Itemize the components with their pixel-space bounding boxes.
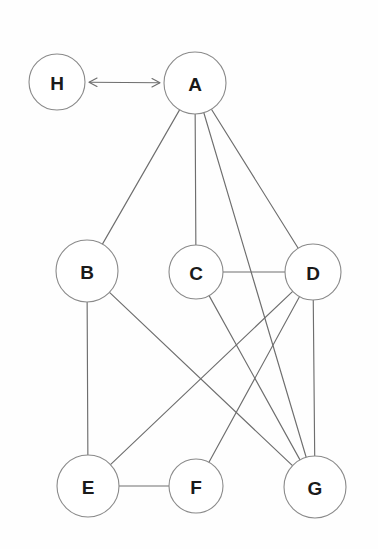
node-label: C	[189, 263, 203, 284]
node-e[interactable]: E	[57, 455, 119, 517]
edge-a-b[interactable]	[102, 110, 179, 244]
edge-d-g[interactable]	[313, 300, 314, 456]
edge-line	[209, 297, 300, 463]
node-c[interactable]: C	[169, 245, 223, 299]
edge-line	[195, 114, 196, 245]
node-label: F	[190, 477, 202, 498]
node-d[interactable]: D	[285, 244, 341, 300]
node-g[interactable]: G	[284, 456, 346, 518]
node-label: E	[82, 477, 95, 498]
node-f[interactable]: F	[169, 459, 223, 513]
nodes-layer: HABCDEFG	[29, 52, 346, 518]
edge-d-f[interactable]	[209, 297, 300, 463]
node-label: A	[188, 74, 202, 95]
edge-a-c[interactable]	[195, 114, 196, 245]
edge-line	[102, 110, 179, 244]
edge-line	[89, 82, 160, 83]
node-label: D	[306, 263, 320, 284]
edge-d-e[interactable]	[110, 291, 292, 464]
edge-line	[313, 300, 314, 456]
node-a[interactable]: A	[164, 52, 226, 114]
graph-diagram-canvas: HABCDEFG	[0, 0, 378, 549]
edge-line	[211, 109, 298, 248]
edge-b-e[interactable]	[87, 302, 88, 455]
node-b[interactable]: B	[56, 240, 118, 302]
node-label: B	[80, 262, 94, 283]
edge-line	[87, 302, 88, 455]
node-h[interactable]: H	[29, 54, 85, 110]
edge-h-a[interactable]	[89, 78, 160, 87]
node-label: G	[308, 478, 323, 499]
node-label: H	[50, 73, 64, 94]
graph-svg: HABCDEFG	[0, 0, 378, 549]
edge-line	[110, 291, 292, 464]
edge-a-d[interactable]	[211, 109, 298, 248]
